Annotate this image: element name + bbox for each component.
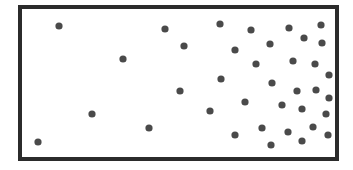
particle-dot [34, 138, 41, 145]
particle-dot [267, 141, 274, 148]
particle-dot [258, 124, 265, 131]
particle-dot [268, 79, 275, 86]
particle-dot [317, 21, 324, 28]
particle-dot [252, 60, 259, 67]
particles-group [34, 20, 332, 148]
particle-dot [284, 128, 291, 135]
particle-dot [318, 39, 325, 46]
particle-dot [180, 42, 187, 49]
particle-dot [145, 124, 152, 131]
particle-dot [325, 94, 332, 101]
particle-dot [324, 131, 331, 138]
particle-box-diagram [0, 0, 353, 170]
particle-dot [285, 24, 292, 31]
particle-dot [322, 110, 329, 117]
particle-dot [298, 105, 305, 112]
particle-dot [298, 137, 305, 144]
particle-dot [176, 87, 183, 94]
particle-dot [312, 86, 319, 93]
particle-dot [161, 25, 168, 32]
particle-dot [293, 87, 300, 94]
particle-dot [309, 123, 316, 130]
particle-dot [216, 20, 223, 27]
particle-dot [55, 22, 62, 29]
particle-dot [217, 75, 224, 82]
particle-dot [278, 101, 285, 108]
particle-dot [119, 55, 126, 62]
particle-dot [88, 110, 95, 117]
particle-dot [266, 40, 273, 47]
particle-dot [206, 107, 213, 114]
particle-dot [311, 60, 318, 67]
particle-dot [241, 98, 248, 105]
particle-dot [231, 46, 238, 53]
particle-dot [231, 131, 238, 138]
particle-dot [325, 71, 332, 78]
particle-dot [300, 34, 307, 41]
particle-dot [289, 57, 296, 64]
particle-dot [247, 26, 254, 33]
